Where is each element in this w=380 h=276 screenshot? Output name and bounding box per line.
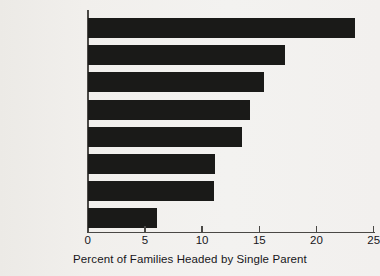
bar	[88, 100, 250, 120]
bar	[88, 18, 355, 38]
bar-row: Sweden	[88, 45, 374, 65]
bar	[88, 72, 264, 92]
x-tick-label: 0	[84, 234, 90, 246]
x-tick-label: 25	[367, 234, 380, 246]
x-tick-label: 5	[142, 234, 148, 246]
x-tick	[144, 226, 145, 232]
x-axis-label: Percent of Families Headed by Single Par…	[0, 253, 380, 265]
bar	[88, 45, 285, 65]
bar-row: United Kingdom	[88, 127, 374, 147]
bar-row: Japan	[88, 208, 374, 228]
bar-row: United States	[88, 18, 374, 38]
x-tick	[87, 226, 88, 232]
x-tick	[316, 226, 317, 232]
bar-row: West Germany	[88, 100, 374, 120]
bar-chart: United StatesSwedenCanadaWest GermanyUni…	[0, 0, 380, 276]
x-tick-label: 20	[310, 234, 323, 246]
bar	[88, 127, 242, 147]
bar	[88, 154, 215, 174]
bar	[88, 208, 157, 228]
bar-row: Canada	[88, 72, 374, 92]
x-tick-label: 10	[196, 234, 209, 246]
x-tick	[259, 226, 260, 232]
bar-row: Australia	[88, 154, 374, 174]
x-tick	[373, 226, 374, 232]
bar	[88, 181, 214, 201]
plot-area: United StatesSwedenCanadaWest GermanyUni…	[88, 10, 374, 232]
x-tick	[201, 226, 202, 232]
x-tick-label: 15	[253, 234, 266, 246]
bar-row: France	[88, 181, 374, 201]
